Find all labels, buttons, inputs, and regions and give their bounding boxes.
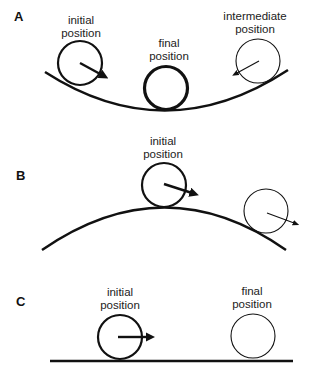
- initial-label-line1: initial: [150, 135, 176, 147]
- final-label-line2: position: [232, 298, 272, 310]
- ball-initial-c: initial position: [98, 286, 148, 359]
- panel-b: B initial position: [16, 135, 294, 250]
- ball-rolling-away-b: [244, 189, 294, 233]
- ball-intermediate-a: intermediate position: [223, 10, 286, 83]
- stability-diagram: A initial position final position interm…: [0, 0, 312, 372]
- ball-circle: [244, 189, 288, 233]
- ball-final-c: final position: [231, 285, 275, 358]
- final-label-line2: position: [149, 50, 189, 62]
- arrow-right-down-icon: [267, 213, 294, 223]
- final-label-line1: final: [241, 285, 262, 297]
- ball-initial-a: initial position: [58, 14, 102, 85]
- panel-a: A initial position final position interm…: [14, 9, 288, 111]
- initial-label-line2: position: [61, 27, 101, 39]
- intermediate-label-line1: intermediate: [223, 10, 286, 22]
- concave-surface: [45, 70, 288, 111]
- panel-label-a: A: [14, 9, 24, 24]
- ball-final-a: final position: [145, 37, 189, 110]
- convex-surface: [42, 208, 286, 251]
- final-label-line1: final: [158, 37, 179, 49]
- panel-label-b: B: [16, 168, 25, 183]
- arrow-down-left-icon: [237, 61, 259, 73]
- panel-c: C initial position final position: [16, 285, 293, 361]
- initial-label-line2: position: [100, 299, 140, 311]
- initial-label-line1: initial: [107, 286, 133, 298]
- initial-label-line1: initial: [68, 14, 94, 26]
- intermediate-label-line2: position: [235, 23, 275, 35]
- arrow-down-right-icon: [80, 63, 102, 75]
- ball-circle: [145, 67, 188, 110]
- panel-label-c: C: [16, 294, 26, 309]
- initial-label-line2: position: [143, 148, 183, 160]
- arrow-right-down-icon: [164, 184, 192, 193]
- ball-initial-b: initial position: [142, 135, 192, 207]
- ball-circle: [231, 314, 275, 358]
